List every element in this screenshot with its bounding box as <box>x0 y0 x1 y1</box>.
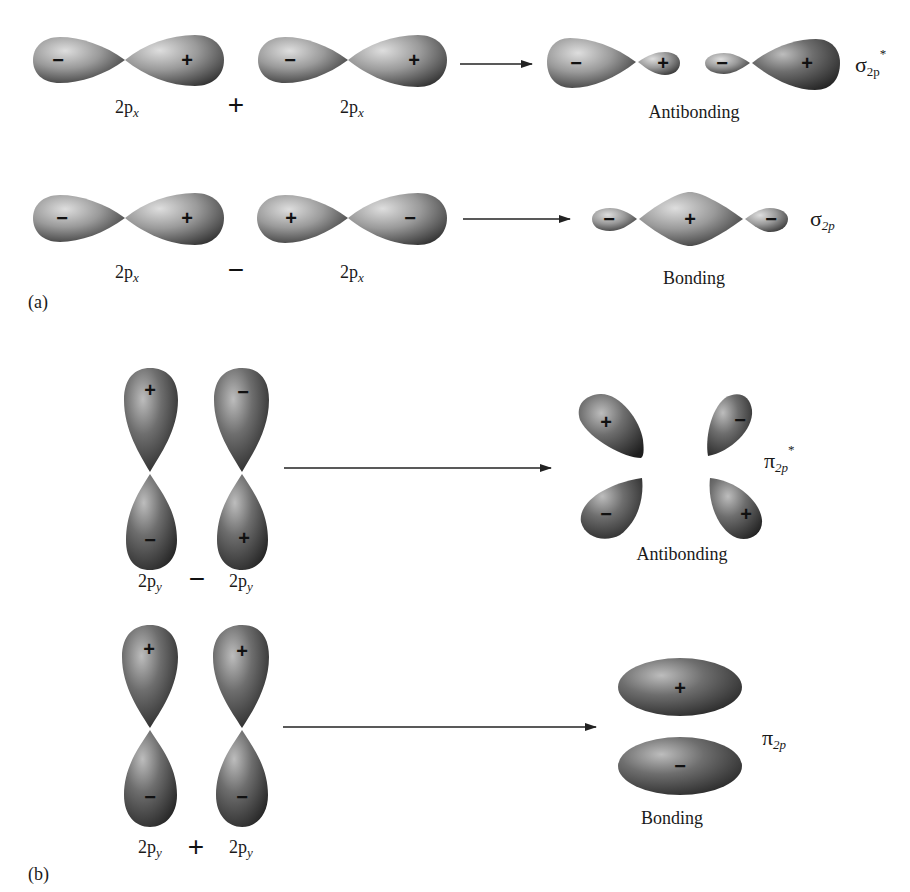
p-orbital-y-2: + − <box>213 625 269 827</box>
mo-symbol: σ2p* <box>855 46 886 79</box>
panel-label-b: (b) <box>28 864 49 885</box>
sigma-bonding-orbital: − + − <box>592 192 788 246</box>
phase-sign: + <box>144 379 156 401</box>
result-caption: Bonding <box>663 268 725 288</box>
phase-sign: − <box>237 381 249 403</box>
p-orbital-x-1: − + <box>33 35 224 86</box>
phase-sign: − <box>144 786 156 808</box>
molecular-orbital-diagram: − + − + 2px + 2px − + − + σ2p* Antibondi… <box>0 0 910 892</box>
phase-sign: − <box>674 755 686 777</box>
orbital-label: 2px <box>340 97 364 120</box>
mo-symbol: σ2p <box>810 206 835 233</box>
phase-sign: + <box>740 503 752 525</box>
mo-symbol: π2p* <box>764 442 795 475</box>
phase-sign: + <box>600 411 612 433</box>
phase-sign: − <box>734 409 746 431</box>
phase-sign: − <box>404 207 416 229</box>
orbital-lobe-left <box>33 37 125 83</box>
orbital-lobe <box>752 39 840 90</box>
orbital-lobe-left <box>33 195 125 242</box>
orbital-lobe <box>710 478 762 539</box>
p-orbital-x-1: − + <box>33 193 224 245</box>
orbital-lobe-left <box>257 195 348 243</box>
combination-operator: − <box>228 254 244 285</box>
orbital-lobe <box>547 38 636 88</box>
phase-sign: − <box>284 49 296 71</box>
orbital-lobe-bottom <box>217 474 268 570</box>
orbital-lobe-right <box>125 35 224 86</box>
sigma-antibonding-orbital: − + − + <box>547 38 840 90</box>
pi-bonding-orbital: + − <box>618 658 742 795</box>
orbital-lobe-left <box>258 37 348 83</box>
phase-sign: − <box>570 52 582 74</box>
phase-sign: + <box>143 638 155 660</box>
panel-label-a: (a) <box>28 292 48 313</box>
panel-a-row1: − + − + 2px + 2px − + − + σ2p* Antibondi… <box>33 35 886 122</box>
result-caption: Antibonding <box>648 102 739 122</box>
p-orbital-x-2: + − <box>257 193 447 245</box>
phase-sign: + <box>408 49 420 71</box>
p-orbital-x-2: − + <box>258 35 447 87</box>
result-caption: Bonding <box>641 808 703 828</box>
phase-sign: − <box>236 786 248 808</box>
orbital-lobe-bottom <box>216 730 268 827</box>
orbital-lobe-right <box>125 193 224 245</box>
phase-sign: − <box>144 529 156 551</box>
phase-sign: + <box>238 527 250 549</box>
phase-sign: + <box>801 52 813 74</box>
orbital-lobe-right <box>348 193 447 245</box>
pi-antibonding-orbital: + − − + <box>579 394 762 539</box>
orbital-label: 2py <box>138 571 162 594</box>
combination-operator: − <box>189 563 205 594</box>
phase-sign: + <box>684 208 696 230</box>
panel-b-row2: + − + − 2py + 2py + − π2p Bonding <box>122 625 787 862</box>
orbital-lobe-bottom <box>126 474 177 570</box>
orbital-label: 2py <box>229 571 253 594</box>
phase-sign: + <box>181 207 193 229</box>
p-orbital-y-2: − + <box>214 368 269 570</box>
panel-b-row1: + − − + 2py − 2py + − − + π2p* Antibondi… <box>124 368 795 594</box>
mo-symbol: π2p <box>762 725 787 752</box>
orbital-label: 2px <box>340 262 364 285</box>
phase-sign: − <box>716 52 728 74</box>
phase-sign: − <box>600 503 612 525</box>
phase-sign: + <box>285 207 297 229</box>
phase-sign: − <box>765 208 777 230</box>
orbital-lobe-bottom <box>124 730 177 827</box>
phase-sign: − <box>52 49 64 71</box>
phase-sign: + <box>657 52 669 74</box>
orbital-label: 2py <box>229 837 253 860</box>
phase-sign: + <box>236 640 248 662</box>
orbital-label: 2py <box>138 837 162 860</box>
orbital-label: 2px <box>115 262 139 285</box>
orbital-lobe-right <box>348 35 447 87</box>
result-caption: Antibonding <box>636 544 727 564</box>
panel-a-row2: − + + − 2px − 2px − + − σ2p Bonding <box>33 192 835 288</box>
phase-sign: + <box>674 677 686 699</box>
phase-sign: − <box>56 207 68 229</box>
p-orbital-y-1: + − <box>124 368 178 570</box>
phase-sign: − <box>603 208 615 230</box>
phase-sign: + <box>181 49 193 71</box>
p-orbital-y-1: + − <box>122 625 178 827</box>
orbital-label: 2px <box>115 97 139 120</box>
combination-operator: + <box>228 89 244 120</box>
combination-operator: + <box>188 831 204 862</box>
